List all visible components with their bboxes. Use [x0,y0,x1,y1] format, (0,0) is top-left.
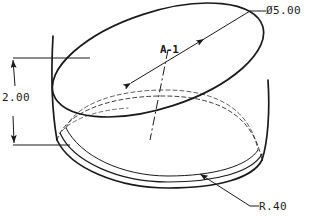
bottom-outer-front-arc [57,140,262,188]
center-axis-line [150,50,168,140]
inner-back-hidden-arc [66,90,258,150]
bottom-inner-front-arc [66,128,258,176]
diameter-leader [131,11,266,83]
center-axis-label: A-1 [160,43,178,56]
cylinder-solid [39,0,278,188]
height-arrow-down [13,116,14,143]
technical-drawing-canvas: Ø5.00 2.00 R.40 A-1 [0,0,314,222]
top-face-ellipse [39,0,278,140]
left-wall-edge [52,36,57,140]
diameter-dimension-label: Ø5.00 [266,4,301,17]
isometric-cylinder-drawing [0,0,314,222]
height-arrow-up [13,60,15,86]
radius-leader-line [200,174,250,206]
right-wall-edge [262,80,269,160]
bottom-fillet-arc [60,133,262,182]
diameter-leader-extension [204,11,250,39]
radius-dimension-label: R.40 [259,200,287,213]
height-dimension-label: 2.00 [2,91,30,104]
